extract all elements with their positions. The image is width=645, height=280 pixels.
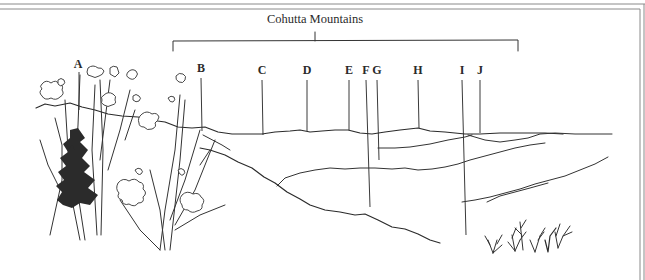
- mountain-range-bracket: [173, 32, 518, 51]
- leader-B: [201, 78, 202, 131]
- ridge-lower-right-2: [487, 183, 548, 202]
- label-F: F: [362, 63, 369, 77]
- label-D: D: [303, 63, 312, 77]
- ridge-middle: [277, 143, 545, 186]
- label-H: H: [413, 63, 423, 77]
- leader-C: [262, 80, 263, 135]
- mountain-ridgelines: [36, 103, 612, 243]
- leader-F: [366, 80, 370, 207]
- grass-tufts: [485, 220, 572, 253]
- illustration-canvas: Cohutta Mountains A B C D E F G H I J: [0, 0, 645, 280]
- ridge-right-upper: [468, 133, 612, 142]
- leader-H: [418, 80, 419, 128]
- label-C: C: [258, 63, 267, 77]
- figure-frame: [0, 4, 645, 280]
- label-E: E: [345, 63, 353, 77]
- label-B: B: [197, 61, 205, 75]
- label-A: A: [74, 57, 83, 71]
- label-J: J: [477, 63, 483, 77]
- figure-title: Cohutta Mountains: [267, 12, 363, 26]
- ridge-right-mid: [378, 135, 472, 148]
- ridge-foreground-slope: [200, 148, 440, 243]
- label-G: G: [372, 63, 381, 77]
- leader-I: [462, 80, 466, 235]
- ridge-lower-right: [462, 157, 608, 202]
- label-I: I: [460, 63, 465, 77]
- cohutta-mountains-diagram: Cohutta Mountains A B C D E F G H I J: [0, 0, 645, 280]
- ridge-main: [36, 103, 563, 134]
